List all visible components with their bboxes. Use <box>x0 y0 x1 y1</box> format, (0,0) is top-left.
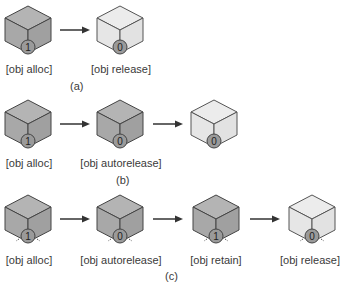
svg-text:0: 0 <box>309 231 315 242</box>
step-label: [obj alloc] <box>5 63 53 75</box>
step-label: [obj autorelease] <box>78 157 164 169</box>
step-label: [obj alloc] <box>5 157 53 169</box>
panel-caption: (b) <box>116 174 129 186</box>
arrow-right-icon <box>250 214 280 224</box>
object-cube-retained: 1 <box>3 192 53 244</box>
arrow-right-icon <box>60 214 90 224</box>
object-cube-retained: 0 <box>95 97 145 149</box>
svg-text:1: 1 <box>25 231 31 242</box>
arrow-right-icon <box>153 214 183 224</box>
object-cube-retained: 0 <box>95 192 145 244</box>
object-cube-retained: 1 <box>191 192 241 244</box>
svg-text:0: 0 <box>211 136 217 147</box>
object-cube-released: 0 <box>95 3 145 55</box>
object-cube-released: 0 <box>287 192 337 244</box>
step-label: [obj retain] <box>186 254 246 266</box>
svg-text:1: 1 <box>25 42 31 53</box>
svg-text:1: 1 <box>213 231 219 242</box>
object-cube-retained: 1 <box>3 3 53 55</box>
svg-text:0: 0 <box>117 42 123 53</box>
object-cube-released: 0 <box>189 97 239 149</box>
step-label: [obj autorelease] <box>78 254 164 266</box>
step-label: [obj release] <box>88 63 154 75</box>
panel-caption: (a) <box>70 80 83 92</box>
object-cube-retained: 1 <box>3 97 53 149</box>
arrow-right-icon <box>60 119 90 129</box>
arrow-right-icon <box>60 25 90 35</box>
svg-text:0: 0 <box>117 231 123 242</box>
svg-text:0: 0 <box>117 136 123 147</box>
step-label: [obj alloc] <box>5 254 53 266</box>
panel-caption: (c) <box>165 270 178 282</box>
step-label: [obj release] <box>277 254 343 266</box>
svg-text:1: 1 <box>25 136 31 147</box>
arrow-right-icon <box>153 119 183 129</box>
